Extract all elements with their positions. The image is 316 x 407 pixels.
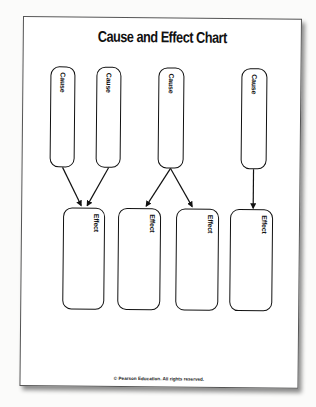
arrow-cause1-effect1 xyxy=(62,167,81,205)
effect-box-3[interactable]: Effect xyxy=(175,208,219,310)
effect-box-4[interactable]: Effect xyxy=(229,209,273,311)
effect-box-1[interactable]: Effect xyxy=(62,207,105,309)
arrow-cause2-effect1 xyxy=(87,168,108,206)
effect-label: Effect xyxy=(149,214,156,232)
arrow-cause3-effect2 xyxy=(146,168,170,206)
effect-box-2[interactable]: Effect xyxy=(117,208,161,310)
worksheet-page: Cause and Effect Chart Cause Cause Cause… xyxy=(19,16,302,389)
arrow-cause3-effect3 xyxy=(170,168,192,206)
effect-label: Effect xyxy=(207,215,214,233)
effect-label: Effect xyxy=(261,215,268,233)
effect-label: Effect xyxy=(93,214,100,232)
connector-arrows xyxy=(20,17,303,390)
